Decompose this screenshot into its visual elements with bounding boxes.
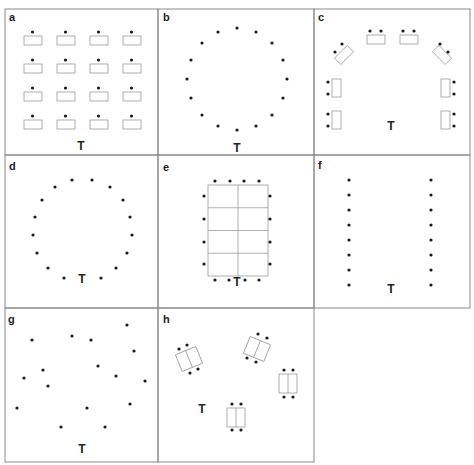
panel-e: e T [163,161,272,289]
panel-label-g: g [8,313,15,325]
student-circle [185,26,288,131]
seating-arrangements-figure: a [0,0,474,465]
panel-b: b T [163,11,289,155]
teacher-marker-e: T [233,275,241,289]
teacher-marker-b: T [233,141,241,155]
panel-c: c T [318,11,456,133]
teacher-marker-a: T [77,139,85,153]
panel-label-e: e [163,161,169,173]
panel-label-d: d [9,160,16,172]
scattered-students [15,323,146,428]
panel-label-c: c [318,11,324,23]
panel-label-a: a [9,11,16,23]
panel-d: d T [9,160,134,286]
teacher-marker-c: T [387,119,395,133]
teacher-marker-f: T [387,282,395,296]
desk-grid [24,30,141,129]
teacher-marker-h: T [198,402,206,416]
panel-label-h: h [163,313,170,325]
panel-label-b: b [163,11,170,23]
student-columns [347,178,432,286]
teacher-marker-d: T [78,272,86,286]
panel-h: h [163,313,297,432]
teacher-marker-g: T [78,442,86,456]
panel-label-f: f [318,159,322,171]
panel-a: a [9,11,141,153]
boardroom-table [202,179,271,281]
panel-f: f T [318,159,433,296]
panel-g: g T [8,313,147,456]
horseshoe-desks [326,29,455,129]
desk-clusters [175,332,297,431]
student-circle [31,178,133,279]
